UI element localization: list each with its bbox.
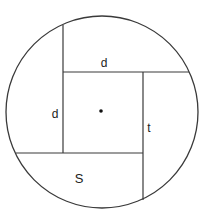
label-top-d: d xyxy=(101,56,108,70)
label-bottom-s: S xyxy=(75,171,84,186)
geometry-diagram: d d t S xyxy=(0,0,209,215)
label-left-d: d xyxy=(52,107,59,121)
label-right-t: t xyxy=(147,121,151,135)
diagram-canvas: d d t S xyxy=(0,0,209,215)
center-point xyxy=(99,109,103,113)
